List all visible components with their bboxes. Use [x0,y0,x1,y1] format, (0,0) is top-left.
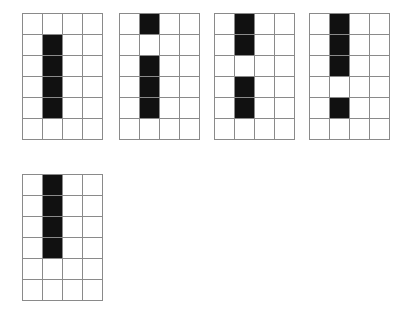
grid-cell [275,56,295,77]
grid-cell [255,56,275,77]
grid-cell [350,98,370,119]
grid-cell [215,35,235,56]
grid-cell [83,98,103,119]
grid-cell [370,14,390,35]
grid-cell [120,77,140,98]
grid-cell [83,175,103,196]
grid-cell [83,119,103,140]
grid-cell [140,14,160,35]
grid-cell [43,98,63,119]
grid-3 [214,13,295,140]
grid-cell [255,119,275,140]
grid-cell [160,35,180,56]
grid-cell [63,238,83,259]
grid-cell [43,280,63,301]
grid-cell [235,119,255,140]
grid-cell [330,119,350,140]
grid-cell [83,35,103,56]
grid-cell [275,35,295,56]
grid-cell [83,217,103,238]
grid-cell [160,98,180,119]
grid-1 [22,13,103,140]
grid-cell [275,98,295,119]
grid-cell [330,14,350,35]
grid-cell [330,77,350,98]
grid-cell [330,35,350,56]
grid-cell [63,98,83,119]
grid-cell [63,35,83,56]
grid-cell [140,119,160,140]
grid-cell [215,98,235,119]
grid-cell [120,56,140,77]
grid-cell [120,14,140,35]
grid-cell [180,77,200,98]
grid-cell [215,77,235,98]
grid-cell [43,175,63,196]
grid-cell [140,56,160,77]
grid-cell [83,77,103,98]
grid-cell [23,14,43,35]
grid-cell [83,280,103,301]
grid-cell [235,35,255,56]
grid-cell [23,35,43,56]
grid-cell [350,77,370,98]
grid-cell [180,14,200,35]
grid-cell [43,217,63,238]
grid-cell [63,196,83,217]
grid-cell [275,119,295,140]
grid-cell [120,98,140,119]
grid-cell [370,56,390,77]
grid-cell [83,259,103,280]
grid-pattern-canvas [0,0,406,311]
grid-cell [23,98,43,119]
grid-cell [83,238,103,259]
grid-cell [310,14,330,35]
grid-cell [63,56,83,77]
grid-cell [140,35,160,56]
grid-cell [235,98,255,119]
grid-4 [309,13,390,140]
grid-cell [23,119,43,140]
grid-cell [160,119,180,140]
grid-cell [43,14,63,35]
grid-cell [23,196,43,217]
grid-cell [350,119,370,140]
grid-cell [275,14,295,35]
grid-cell [63,175,83,196]
grid-cell [160,77,180,98]
grid-cell [140,98,160,119]
grid-cell [350,56,370,77]
grid-cell [43,35,63,56]
grid-cell [350,14,370,35]
grid-cell [43,119,63,140]
grid-cell [215,56,235,77]
grid-cell [160,14,180,35]
grid-cell [63,119,83,140]
grid-cell [140,77,160,98]
grid-cell [43,238,63,259]
grid-cell [43,196,63,217]
grid-cell [370,77,390,98]
grid-cell [43,77,63,98]
grid-cell [180,98,200,119]
grid-cell [63,259,83,280]
grid-cell [23,259,43,280]
grid-cell [215,119,235,140]
grid-cell [23,217,43,238]
grid-cell [235,56,255,77]
grid-2 [119,13,200,140]
grid-cell [23,56,43,77]
grid-cell [330,56,350,77]
grid-5 [22,174,103,301]
grid-cell [23,280,43,301]
grid-cell [310,77,330,98]
grid-cell [255,98,275,119]
grid-cell [330,98,350,119]
grid-cell [83,14,103,35]
grid-cell [63,280,83,301]
grid-cell [255,35,275,56]
grid-cell [83,196,103,217]
grid-cell [215,14,235,35]
grid-cell [63,77,83,98]
grid-cell [370,35,390,56]
